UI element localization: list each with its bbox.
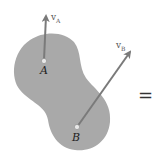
point-b-label: B [72,131,80,144]
equals-sign: = [138,84,153,105]
point-a-marker [41,58,46,63]
vector-b-label: vB [116,40,126,52]
vector-b-subscript: B [121,45,125,52]
vector-a-label: vA [51,12,60,24]
point-b-marker [74,124,79,129]
rigid-body-diagram: A B vA vB = [0,0,166,163]
point-a-label: A [40,64,48,77]
vector-a-subscript: A [56,17,60,24]
diagram-graphics [0,0,166,163]
rigid-body-shape [14,33,110,150]
